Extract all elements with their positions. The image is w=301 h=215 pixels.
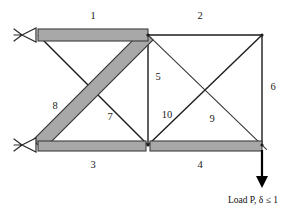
support-bottom-left-hatch: [14, 139, 22, 151]
support-bottom-left-triangle: [22, 138, 36, 152]
member-label-8: 8: [52, 100, 57, 111]
node-top-mid: [146, 33, 149, 36]
member-label-5: 5: [155, 71, 160, 82]
member-label-10: 10: [162, 109, 173, 120]
member-label-2: 2: [197, 10, 202, 21]
thick-members-group: [33, 29, 267, 151]
node-bottom-right: [260, 143, 263, 146]
member-3-bottom-left-chord: [38, 141, 146, 151]
truss-canvas: 1 2 3 4 5 6 7 8 9 10 Load P, δ ≤ 1: [0, 0, 301, 215]
support-top-left: [14, 28, 36, 42]
load-arrow-head: [256, 176, 268, 188]
thin-members-group: [38, 35, 262, 145]
node-bottom-mid: [146, 143, 149, 146]
member-label-7: 7: [107, 111, 112, 122]
member-label-1: 1: [90, 10, 95, 21]
truss-diagram: 1 2 3 4 5 6 7 8 9 10 Load P, δ ≤ 1: [0, 0, 301, 215]
member-label-4: 4: [197, 159, 203, 170]
member-4-bottom-right-chord: [150, 141, 262, 151]
member-label-9: 9: [209, 113, 214, 124]
support-bottom-left: [14, 138, 36, 152]
load-caption: Load P, δ ≤ 1: [228, 195, 278, 205]
member-label-3: 3: [90, 159, 95, 170]
member-1-top-left-chord: [38, 29, 148, 41]
member-label-6: 6: [270, 81, 275, 92]
node-top-right: [260, 33, 263, 36]
support-top-left-triangle: [22, 28, 36, 42]
support-top-left-hatch: [14, 29, 22, 41]
load-arrow: [256, 150, 268, 188]
